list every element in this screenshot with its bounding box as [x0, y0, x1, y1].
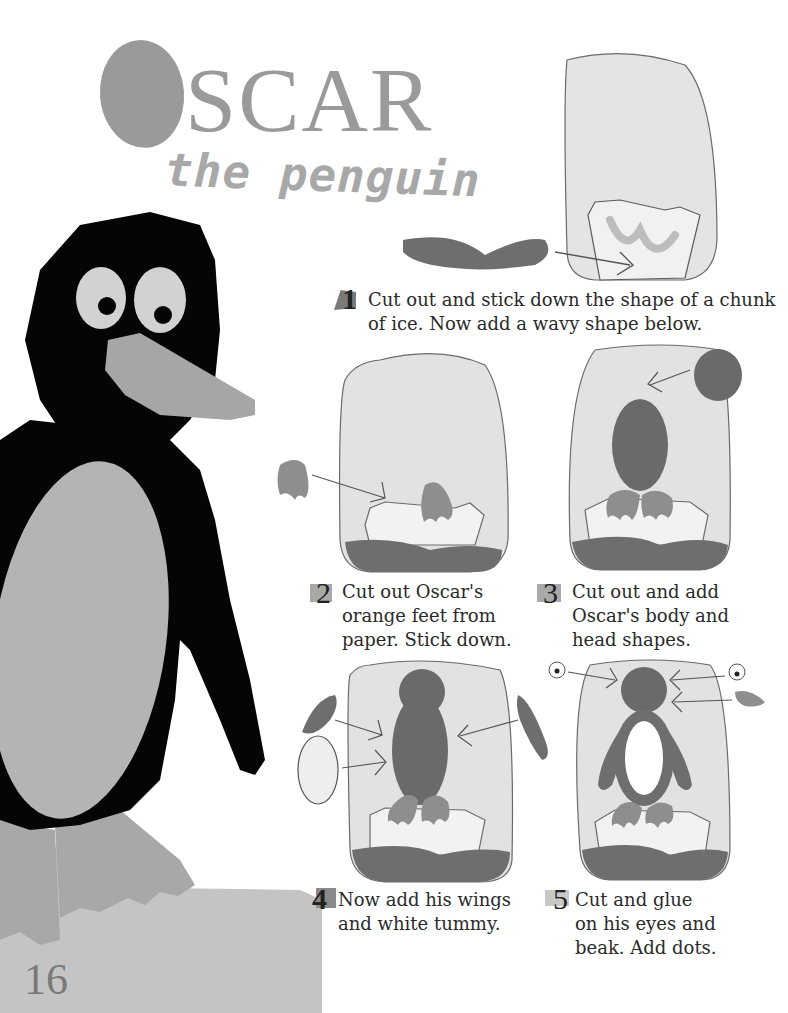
step-3-text: Cut out and add Oscar's body and head sh…: [572, 580, 772, 652]
step-3-illustration: [540, 340, 788, 580]
step-1-text: Cut out and stick down the shape of a ch…: [368, 288, 788, 336]
step-4-badge: 4: [310, 886, 340, 914]
step-5-badge: 5: [545, 886, 575, 914]
step-5-text: Cut and glue on his eyes and beak. Add d…: [575, 888, 775, 960]
step-4-text: Now add his wings and white tummy.: [338, 888, 538, 936]
step-5-illustration: [540, 650, 788, 890]
step-3-badge: 3: [535, 580, 565, 610]
step-1-badge: 1: [334, 286, 360, 312]
step-1-illustration: [395, 40, 725, 290]
page-number: 16: [24, 958, 68, 1002]
step-2-text: Cut out Oscar's orange feet from paper. …: [342, 580, 532, 652]
step-2-badge: 2: [308, 580, 338, 610]
step-4-illustration: [290, 650, 560, 890]
step-2-illustration: [270, 340, 530, 580]
